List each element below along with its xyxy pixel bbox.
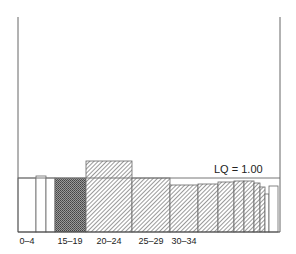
x-tick-label: 30–34 — [171, 236, 196, 246]
bar-10–14 — [46, 178, 55, 232]
bar-30–34 — [170, 185, 198, 232]
bar-20–24 — [86, 161, 132, 232]
bar-25–29 — [132, 178, 170, 232]
bar-55–59 — [254, 183, 260, 232]
bar-45–49 — [234, 181, 244, 232]
bar-40–44 — [218, 182, 234, 232]
x-tick-label: 15–19 — [57, 236, 82, 246]
lq-reference-label: LQ = 1.00 — [214, 163, 263, 175]
bar-50–54 — [244, 181, 254, 232]
x-tick-label: 0–4 — [19, 236, 34, 246]
bar-0–4 — [18, 178, 36, 232]
x-tick-label: 20–24 — [96, 236, 121, 246]
location-quotient-chart: LQ = 1.00 0–415–1920–2425–2930–34 — [0, 0, 296, 254]
bar-5–9 — [36, 176, 46, 232]
bar-35–39 — [198, 184, 218, 232]
bar-65–69 — [265, 194, 269, 232]
bar-60–64 — [260, 187, 265, 232]
bar-15–19 — [55, 178, 86, 232]
bar-70+ — [269, 186, 278, 232]
x-tick-labels: 0–415–1920–2425–2930–34 — [19, 236, 196, 246]
x-tick-label: 25–29 — [138, 236, 163, 246]
